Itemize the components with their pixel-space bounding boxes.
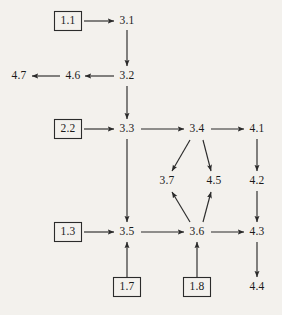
diagram-canvas: 1.13.13.24.64.72.23.33.44.13.74.54.21.33…: [0, 0, 282, 315]
node-1_1[interactable]: 1.1: [55, 12, 82, 31]
node-label-4_2: 4.2: [250, 174, 265, 186]
flow-diagram: 1.13.13.24.64.72.23.33.44.13.74.54.21.33…: [0, 0, 282, 315]
node-label-1_8: 1.8: [190, 280, 205, 292]
node-4_2[interactable]: 4.2: [250, 174, 265, 186]
node-3_1[interactable]: 3.1: [120, 14, 135, 26]
nodes-layer: 1.13.13.24.64.72.23.33.44.13.74.54.21.33…: [12, 12, 265, 297]
node-label-1_1: 1.1: [61, 14, 76, 26]
node-3_4[interactable]: 3.4: [190, 122, 205, 134]
node-4_4[interactable]: 4.4: [250, 280, 265, 292]
node-label-4_6: 4.6: [66, 69, 81, 81]
edge-3_6-to-3_7: [172, 192, 190, 222]
node-3_2[interactable]: 3.2: [120, 69, 135, 81]
node-1_7[interactable]: 1.7: [114, 278, 141, 297]
node-label-3_7: 3.7: [160, 174, 175, 186]
node-label-4_3: 4.3: [250, 225, 265, 237]
node-label-3_3: 3.3: [120, 122, 135, 134]
node-4_5[interactable]: 4.5: [207, 174, 222, 186]
node-4_7[interactable]: 4.7: [12, 69, 27, 81]
node-label-2_2: 2.2: [61, 122, 76, 134]
edge-3_4-to-4_5: [203, 140, 211, 171]
node-3_3[interactable]: 3.3: [120, 122, 135, 134]
node-1_8[interactable]: 1.8: [184, 278, 211, 297]
edge-3_4-to-3_7: [172, 140, 190, 171]
node-3_7[interactable]: 3.7: [160, 174, 175, 186]
node-2_2[interactable]: 2.2: [55, 120, 82, 139]
node-1_3[interactable]: 1.3: [55, 223, 82, 242]
node-label-3_5: 3.5: [120, 225, 135, 237]
node-3_6[interactable]: 3.6: [190, 225, 205, 237]
edges-layer: [32, 21, 257, 277]
node-label-1_3: 1.3: [61, 225, 76, 237]
node-label-4_1: 4.1: [250, 122, 265, 134]
node-label-1_7: 1.7: [120, 280, 135, 292]
node-4_6[interactable]: 4.6: [66, 69, 81, 81]
node-label-3_1: 3.1: [120, 14, 135, 26]
node-4_3[interactable]: 4.3: [250, 225, 265, 237]
node-label-3_4: 3.4: [190, 122, 205, 134]
node-label-3_2: 3.2: [120, 69, 135, 81]
node-label-3_6: 3.6: [190, 225, 205, 237]
node-label-4_5: 4.5: [207, 174, 222, 186]
node-label-4_7: 4.7: [12, 69, 27, 81]
node-4_1[interactable]: 4.1: [250, 122, 265, 134]
node-label-4_4: 4.4: [250, 280, 265, 292]
node-3_5[interactable]: 3.5: [120, 225, 135, 237]
edge-3_6-to-4_5: [203, 192, 211, 222]
